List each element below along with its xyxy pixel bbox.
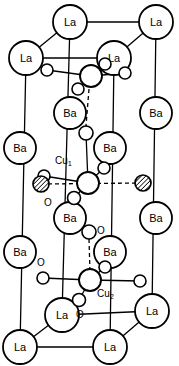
dopant-left — [33, 176, 49, 192]
crystal-structure-diagram: La La La La La La — [0, 0, 179, 366]
ba-lower-back-right: Ba — [140, 202, 172, 234]
o-cu1-front — [68, 192, 81, 205]
cu1-element: Cu — [55, 155, 68, 166]
ba-label: Ba — [149, 212, 163, 224]
o-cu2-left — [37, 272, 49, 284]
la-bot-front-right: La — [93, 330, 127, 364]
o-cu1-back — [98, 162, 110, 174]
o-upper-front — [72, 83, 84, 95]
o-upper-right — [119, 67, 131, 79]
o-label-lower: O — [37, 257, 45, 268]
o-apical-upper — [79, 126, 93, 140]
la-top-back-left: La — [53, 5, 87, 39]
la-label: La — [20, 52, 33, 64]
dopant-right — [135, 175, 151, 191]
o-label-bottom: O — [76, 309, 84, 320]
ba-upper-back-right: Ba — [140, 97, 172, 129]
o-label-apical: O — [97, 225, 105, 236]
la-bot-back-right: La — [135, 294, 169, 328]
o-label-mid: O — [44, 197, 52, 208]
cu2-subscript: 2 — [110, 292, 114, 301]
cu1-text: Cu1 — [55, 155, 72, 168]
ba-lower-back-mid: Ba — [54, 202, 86, 234]
cu1-site — [77, 172, 99, 194]
ba-label: Ba — [63, 107, 77, 119]
o-cu2-back — [99, 261, 111, 273]
la-bot-front-left: La — [3, 330, 37, 364]
la-top-front-left: La — [9, 41, 43, 75]
o-apical-lower — [82, 225, 96, 239]
ba-label: Ba — [63, 212, 77, 224]
la-label: La — [64, 16, 77, 28]
o-upper-back — [99, 58, 111, 70]
o-upper-left — [41, 64, 53, 76]
ba-label: Ba — [103, 246, 117, 258]
ba-upper-front-mid: Ba — [94, 132, 126, 164]
la-top-back-right: La — [139, 5, 173, 39]
o-cu2-front — [73, 294, 86, 307]
ba-lower-front-left: Ba — [4, 236, 36, 268]
ba-label: Ba — [103, 142, 117, 154]
o-cu2-right — [134, 275, 146, 287]
ba-upper-front-left: Ba — [4, 132, 36, 164]
la-label: La — [14, 341, 27, 353]
la-label: La — [150, 16, 163, 28]
la-label: La — [56, 309, 69, 321]
ba-upper-back-mid: Ba — [54, 97, 86, 129]
cu2-element: Cu — [97, 288, 110, 299]
figure-canvas: La La La La La La — [0, 0, 179, 366]
la-label: La — [146, 305, 159, 317]
ba-label: Ba — [149, 107, 163, 119]
cu-upper-site — [80, 65, 102, 87]
ba-label: Ba — [13, 142, 27, 154]
la-label: La — [104, 341, 117, 353]
cu1-subscript: 1 — [68, 159, 72, 168]
ba-label: Ba — [13, 246, 27, 258]
